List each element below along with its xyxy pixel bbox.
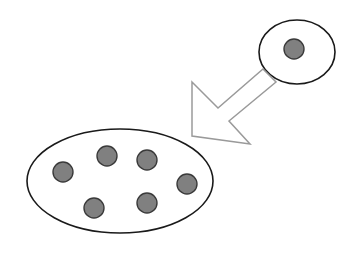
target-group[interactable] xyxy=(27,129,213,233)
dot-target-5[interactable] xyxy=(137,193,157,213)
dot-target-1[interactable] xyxy=(53,162,73,182)
dot-target-3[interactable] xyxy=(137,150,157,170)
dot-source-1[interactable] xyxy=(284,39,304,59)
diagram-illustration xyxy=(0,0,356,254)
diagram-canvas xyxy=(0,0,356,254)
dot-target-6[interactable] xyxy=(84,198,104,218)
block-arrow-icon[interactable] xyxy=(192,69,276,144)
source-group[interactable] xyxy=(259,20,335,84)
arrow-group[interactable] xyxy=(192,69,276,144)
dot-target-4[interactable] xyxy=(177,174,197,194)
dot-target-2[interactable] xyxy=(97,146,117,166)
